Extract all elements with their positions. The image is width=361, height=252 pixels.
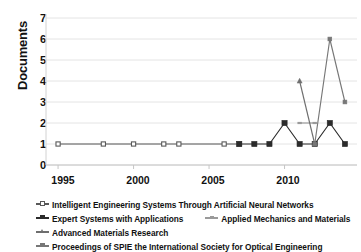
legend-item[interactable]: Applied Mechanics and Materials <box>205 210 350 223</box>
data-point <box>267 141 272 146</box>
series-4 <box>313 37 347 146</box>
series-layer <box>0 0 361 190</box>
data-point <box>297 122 301 124</box>
data-point <box>313 142 317 146</box>
data-point <box>297 141 302 146</box>
data-point <box>342 141 347 146</box>
legend-row: Advanced Materials Research <box>0 224 361 237</box>
legend-row: Proceedings of SPIE the International So… <box>0 238 361 251</box>
series-3 <box>297 78 317 146</box>
legend-item[interactable]: Expert Systems with Applications <box>36 210 183 223</box>
data-point <box>162 142 166 146</box>
legend-label: Proceedings of SPIE the International So… <box>52 242 322 252</box>
data-point <box>282 120 287 125</box>
data-point <box>56 142 60 146</box>
data-point <box>252 141 257 146</box>
series-2 <box>297 122 316 124</box>
chart-legend: Intelligent Engineering Systems Through … <box>0 196 361 252</box>
series-1 <box>237 120 348 146</box>
data-point <box>327 120 332 125</box>
legend-row: Intelligent Engineering Systems Through … <box>0 196 361 209</box>
legend-label: Expert Systems with Applications <box>52 214 183 224</box>
plot-area: Documents 7 6 5 4 3 2 1 0 1995 2000 2005… <box>0 0 361 190</box>
legend-label: Intelligent Engineering Systems Through … <box>52 200 313 210</box>
legend-marker-icon <box>36 241 49 250</box>
legend-row: Expert Systems with ApplicationsApplied … <box>0 210 361 223</box>
data-point <box>343 100 347 104</box>
data-point <box>237 141 242 146</box>
legend-label: Applied Mechanics and Materials <box>221 214 350 224</box>
documents-per-year-chart: Documents 7 6 5 4 3 2 1 0 1995 2000 2005… <box>0 0 361 252</box>
data-point <box>101 142 105 146</box>
legend-marker-icon <box>36 199 49 208</box>
series-line <box>239 123 345 144</box>
legend-label: Advanced Materials Research <box>52 228 168 238</box>
legend-marker-icon <box>36 213 49 222</box>
series-line <box>300 81 315 144</box>
legend-item[interactable]: Intelligent Engineering Systems Through … <box>36 196 313 209</box>
data-point <box>177 142 181 146</box>
legend-item[interactable]: Advanced Materials Research <box>36 224 168 237</box>
data-point <box>313 122 317 124</box>
legend-marker-icon <box>205 213 218 222</box>
series-0 <box>56 142 241 146</box>
data-point <box>222 142 226 146</box>
legend-item[interactable]: Proceedings of SPIE the International So… <box>36 238 322 251</box>
legend-marker-icon <box>36 227 49 236</box>
series-line <box>315 39 345 144</box>
data-point <box>328 37 332 41</box>
data-point <box>131 142 135 146</box>
